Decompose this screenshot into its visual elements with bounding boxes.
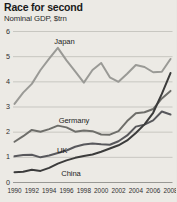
series-line-japan bbox=[15, 48, 171, 104]
series-label-japan: Japan bbox=[54, 38, 74, 46]
chart-plot-area: 0123456 19901992199419961998200020022004… bbox=[0, 26, 176, 202]
x-tick-label: 2008 bbox=[161, 188, 177, 194]
y-tick-label: 4 bbox=[0, 78, 10, 85]
series-line-uk bbox=[15, 112, 171, 158]
series-lines-group bbox=[15, 48, 171, 172]
chart-svg bbox=[0, 26, 176, 202]
y-tick-label: 0 bbox=[0, 179, 10, 186]
chart-subtitle: Nominal GDP, $trn bbox=[4, 14, 67, 23]
y-tick-label: 2 bbox=[0, 128, 10, 135]
y-tick-label: 6 bbox=[0, 28, 10, 35]
chart-figure: Race for second Nominal GDP, $trn 012345… bbox=[0, 0, 176, 202]
series-label-germany: Germany bbox=[59, 117, 90, 125]
series-label-uk: UK bbox=[57, 147, 67, 155]
y-tick-label: 1 bbox=[0, 153, 10, 160]
y-tick-label: 5 bbox=[0, 53, 10, 60]
y-tick-label: 3 bbox=[0, 103, 10, 110]
series-label-china: China bbox=[61, 170, 80, 178]
gridlines-group bbox=[13, 32, 173, 183]
chart-title: Race for second bbox=[4, 1, 83, 13]
series-line-germany bbox=[15, 91, 171, 142]
